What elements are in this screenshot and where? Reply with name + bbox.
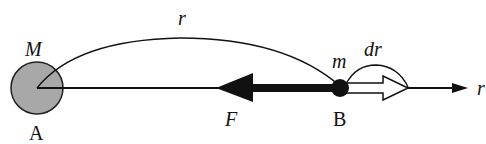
- gravitation-diagram: M A r F B m dr r: [0, 0, 486, 144]
- label-mass-big: M: [24, 38, 43, 60]
- label-displacement: dr: [364, 38, 382, 60]
- label-point-b: B: [333, 108, 346, 130]
- label-point-a: A: [29, 122, 44, 144]
- small-mass-circle: [331, 79, 349, 97]
- label-force: F: [224, 108, 238, 130]
- force-arrow-shaft: [250, 84, 340, 92]
- force-arrowhead-icon: [216, 73, 253, 102]
- label-axis: r: [477, 77, 485, 99]
- displacement-arrow: [346, 76, 408, 100]
- axis-arrowhead-icon: [452, 83, 468, 93]
- label-mass-small: m: [332, 50, 346, 72]
- label-distance: r: [178, 7, 186, 29]
- distance-arc: [37, 38, 340, 88]
